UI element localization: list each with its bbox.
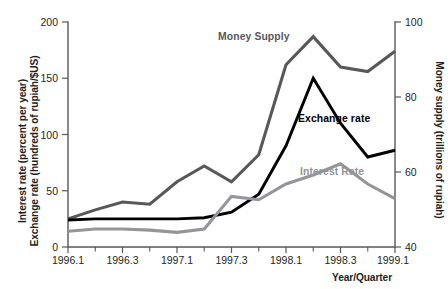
x-tick-label: 1998.3 [324,254,356,266]
y-axis-left-ticks [62,22,68,247]
y-right-tick-label: 40 [405,241,417,253]
y-tick-label: 0 [52,241,58,253]
y-axis-left-tick-labels: 200 150 100 50 0 [40,16,58,253]
x-tick-label: 1998.1 [270,254,302,266]
y-axis-right-ticks [395,22,401,247]
y-axis-title-line1: Interest rate (percent per year) [17,79,28,223]
x-tick-label: 1999.1 [377,254,409,266]
x-tick-label: 1997.1 [161,254,193,266]
line-chart: 200 150 100 50 0 100 80 60 40 [0,0,448,289]
x-tick-label: 1996.3 [106,254,138,266]
series-label-interest-rate: Interest Rate [300,166,364,177]
y-right-tick-label: 80 [405,91,417,103]
y-axis-title-right: Money supply (trillions of rupiah) [434,61,445,218]
y-right-tick-label: 100 [405,16,423,28]
x-tick-label: 1997.3 [215,254,247,266]
series-label-money-supply: Money Supply [218,31,290,42]
y-tick-label: 100 [40,129,58,141]
y-tick-label: 150 [40,72,58,84]
x-axis-ticks [68,247,395,253]
y-axis-right-tick-labels: 100 80 60 40 [405,16,423,253]
y-right-tick-label: 60 [405,166,417,178]
y-tick-label: 50 [46,185,58,197]
series-label-exchange-rate: Exchange rate [298,113,370,124]
x-tick-label: 1996.1 [52,254,84,266]
y-tick-label: 200 [40,16,58,28]
x-axis-title: Year/Quarter [332,272,392,283]
chart-figure: 200 150 100 50 0 100 80 60 40 [0,0,448,289]
x-axis-tick-labels: 1996.1 1996.3 1997.1 1997.3 1998.1 1998.… [52,254,409,266]
y-axis-title-line2: Exchange rate (hundreds of rupiah/$US) [29,56,40,247]
